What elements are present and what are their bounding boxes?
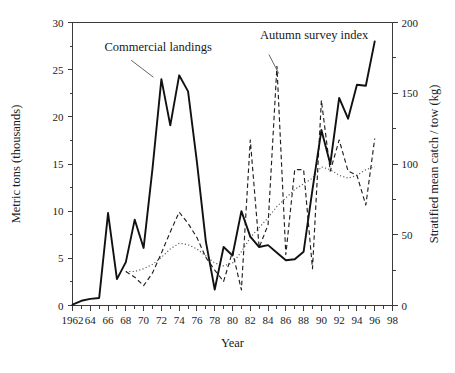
commercial-landings-leader-line	[131, 60, 153, 77]
y-left-tick-label: 30	[53, 17, 65, 29]
x-tick-label: 94	[351, 314, 363, 326]
y-right-tick-label: 150	[402, 87, 419, 99]
y-left-tick-label: 5	[58, 252, 64, 264]
x-tick-label: 74	[174, 314, 186, 326]
axis-ticks-layer	[68, 23, 398, 311]
y-right-tick-label: 0	[402, 300, 408, 312]
commercial-landings-label: Commercial landings	[105, 40, 212, 54]
x-tick-label: 1962	[62, 314, 84, 326]
y-left-tick-label: 15	[53, 158, 65, 170]
series-smoothed-survey-trend	[126, 167, 375, 272]
y-left-tick-label: 20	[53, 111, 65, 123]
x-tick-label: 66	[103, 314, 115, 326]
x-tick-label: 76	[191, 314, 203, 326]
x-tick-label: 88	[298, 314, 310, 326]
x-tick-label: 64	[85, 314, 97, 326]
y-left-tick-label: 0	[58, 300, 64, 312]
x-tick-label: 68	[120, 314, 132, 326]
y-left-tick-label: 25	[53, 64, 65, 76]
x-tick-label: 98	[387, 314, 399, 326]
y-left-tick-label: 10	[53, 205, 65, 217]
y-right-tick-label: 200	[402, 17, 419, 29]
y-right-tick-label: 50	[402, 229, 414, 241]
y-axis-right-title: Stratified mean catch / tow (kg)	[427, 85, 441, 244]
x-tick-label: 82	[245, 314, 256, 326]
series-commercial-landings	[73, 41, 375, 304]
annotations-layer: Commercial landingsAutumn survey index	[105, 28, 370, 78]
data-series-layer	[73, 41, 375, 304]
x-tick-label: 70	[138, 314, 150, 326]
line-chart: 1962646668707274767880828486889092949698…	[0, 0, 455, 373]
axis-labels-layer: 1962646668707274767880828486889092949698…	[9, 17, 441, 351]
x-tick-label: 86	[280, 314, 292, 326]
autumn-survey-index-leader-line	[269, 55, 279, 74]
x-tick-label: 84	[263, 314, 275, 326]
x-tick-label: 90	[316, 314, 328, 326]
y-right-tick-label: 100	[402, 158, 419, 170]
x-axis-title: Year	[221, 336, 245, 350]
x-tick-label: 92	[334, 314, 345, 326]
x-tick-label: 96	[369, 314, 381, 326]
x-tick-label: 80	[227, 314, 239, 326]
x-tick-label: 72	[156, 314, 167, 326]
y-axis-left-title: Metric tons (thousands)	[9, 105, 23, 224]
chart-figure: 1962646668707274767880828486889092949698…	[0, 0, 455, 373]
x-tick-label: 78	[209, 314, 221, 326]
autumn-survey-index-label: Autumn survey index	[260, 28, 369, 42]
